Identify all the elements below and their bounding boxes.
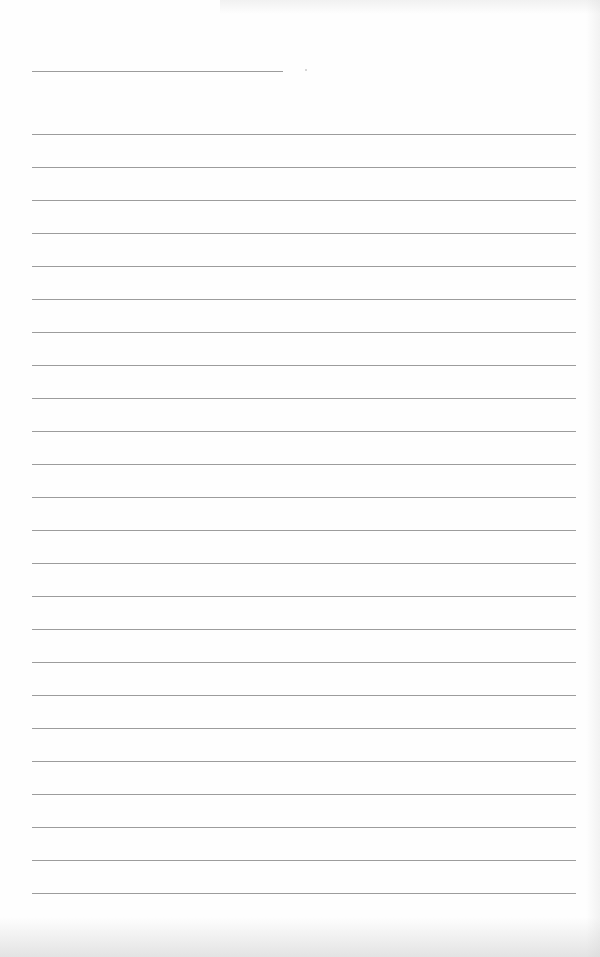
ruled-line bbox=[32, 365, 576, 366]
header-title-line bbox=[32, 71, 283, 72]
ruled-line bbox=[32, 662, 576, 663]
ruled-line bbox=[32, 596, 576, 597]
ruled-line bbox=[32, 893, 576, 894]
ruled-line bbox=[32, 233, 576, 234]
ruled-line bbox=[32, 530, 576, 531]
ruled-line bbox=[32, 431, 576, 432]
bleed-through-shadow bbox=[220, 0, 600, 14]
ruled-line bbox=[32, 794, 576, 795]
ruled-line bbox=[32, 728, 576, 729]
ruled-line bbox=[32, 497, 576, 498]
ruled-line bbox=[32, 332, 576, 333]
ruled-line bbox=[32, 398, 576, 399]
ruled-line bbox=[32, 299, 576, 300]
ruled-line bbox=[32, 464, 576, 465]
ruled-line bbox=[32, 134, 576, 135]
ruled-line bbox=[32, 563, 576, 564]
ruled-line bbox=[32, 827, 576, 828]
ruled-line bbox=[32, 761, 576, 762]
page-edge-shadow-right bbox=[586, 0, 600, 957]
ruled-line bbox=[32, 200, 576, 201]
page-edge-shadow-bottom bbox=[0, 917, 600, 957]
ruled-line bbox=[32, 266, 576, 267]
ruled-line bbox=[32, 695, 576, 696]
ruled-line bbox=[32, 860, 576, 861]
paper-speck bbox=[305, 69, 307, 71]
ruled-line bbox=[32, 167, 576, 168]
notebook-page bbox=[0, 0, 600, 957]
ruled-line bbox=[32, 629, 576, 630]
